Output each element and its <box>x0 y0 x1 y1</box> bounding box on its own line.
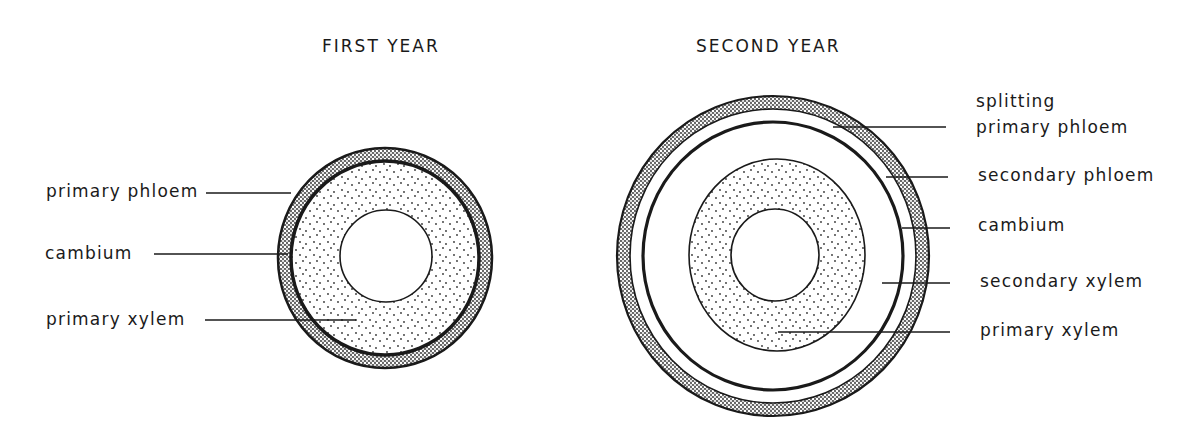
stem-cross-section-diagram <box>0 0 1204 428</box>
sy-pith <box>731 209 819 301</box>
first-year-stem <box>154 148 492 368</box>
fy-pith <box>340 210 432 302</box>
second-year-stem <box>617 96 950 416</box>
